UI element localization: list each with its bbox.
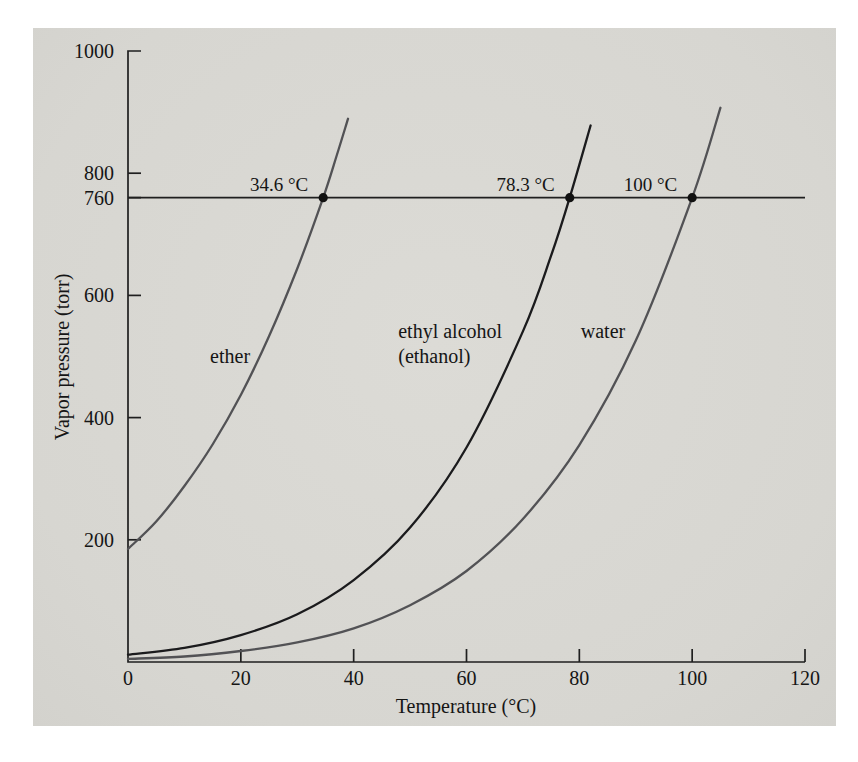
y-tick-label-800: 800 bbox=[44, 162, 114, 184]
y-tick-label-1000: 1000 bbox=[44, 40, 114, 62]
x-tick-label-60: 60 bbox=[432, 667, 502, 689]
y-tick-label-400: 400 bbox=[44, 407, 114, 429]
y-tick-label-200: 200 bbox=[44, 529, 114, 551]
x-tick-label-100: 100 bbox=[657, 667, 727, 689]
x-tick-label-80: 80 bbox=[544, 667, 614, 689]
figure: Vapor pressure (torr) Temperature (°C) 1… bbox=[0, 0, 858, 762]
chart-panel bbox=[33, 28, 836, 726]
x-tick-label-120: 120 bbox=[770, 667, 840, 689]
boiling-point-label-ethyl-alcohol-ethanol-: 78.3 °C bbox=[445, 174, 555, 196]
boiling-point-label-water: 100 °C bbox=[567, 174, 677, 196]
curve-label-ether: ether bbox=[160, 344, 300, 369]
y-tick-label-760: 760 bbox=[44, 187, 114, 209]
x-tick-label-20: 20 bbox=[206, 667, 276, 689]
y-tick-label-600: 600 bbox=[44, 284, 114, 306]
boiling-point-label-ether: 34.6 °C bbox=[198, 174, 308, 196]
curve-label-ethyl-alcohol-ethanol-: ethyl alcohol (ethanol) bbox=[398, 319, 502, 369]
x-axis-title: Temperature (°C) bbox=[396, 695, 536, 718]
x-tick-label-0: 0 bbox=[93, 667, 163, 689]
x-tick-label-40: 40 bbox=[319, 667, 389, 689]
curve-label-water: water bbox=[533, 319, 673, 344]
